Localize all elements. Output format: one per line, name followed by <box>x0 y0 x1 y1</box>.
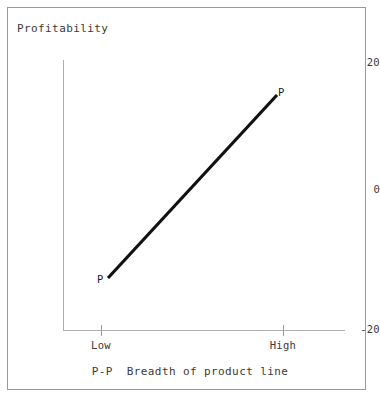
x-axis-caption: P-P Breadth of product line <box>0 365 380 378</box>
data-point-label-high: P <box>278 86 284 98</box>
data-series-line <box>0 0 380 404</box>
plot-area: Profitability 20 0 -20 Low High P P P-P … <box>0 0 380 404</box>
data-point-label-low: P <box>97 273 103 285</box>
